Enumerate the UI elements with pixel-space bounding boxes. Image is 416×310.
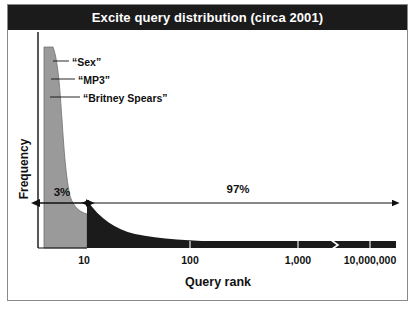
callout-label-sex: “Sex” [72, 56, 101, 68]
x-axis-label: Query rank [38, 275, 398, 289]
chart-figure: Excite query distribution (circa 2001) [0, 0, 416, 310]
head-share-label: 3% [54, 186, 71, 198]
y-axis-label: Frequency [17, 124, 31, 214]
x-tick-label-10000000: 10,000,000 [344, 254, 397, 266]
callout-label-mp3: “MP3” [78, 74, 110, 86]
tail-share-label: 97% [226, 183, 249, 195]
series-tail [87, 200, 396, 248]
x-axis-band [87, 241, 396, 248]
callout-label-britney-spears: “Britney Spears” [83, 92, 168, 104]
x-tick-label-10: 10 [78, 254, 90, 266]
x-tick-label-1000: 1,000 [285, 254, 311, 266]
x-tick-label-100: 100 [181, 254, 199, 266]
